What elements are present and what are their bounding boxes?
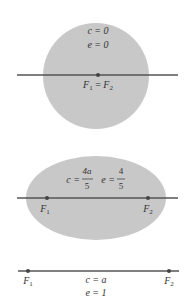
e-denominator: 5 [119, 181, 124, 191]
c-label: c = [66, 174, 80, 185]
focus-point-2 [167, 269, 171, 273]
c-label: c = 0 [87, 25, 108, 36]
focus-label-2: F2 [163, 275, 174, 288]
segment-panel: F1 F2 c = a e = 1 [18, 269, 179, 298]
focus-point-1 [26, 269, 30, 273]
focus-point [96, 73, 100, 77]
focus-label-1: F1 [22, 275, 33, 288]
focus-point-2 [146, 196, 150, 200]
e-label: e = [101, 174, 115, 185]
c-label: c = a [85, 274, 106, 285]
c-numerator: 4a [83, 166, 93, 176]
e-label: e = 1 [85, 287, 106, 298]
circle-panel: c = 0 e = 0 F1 = F2 [17, 23, 178, 129]
c-denominator: 5 [85, 181, 90, 191]
eccentricity-diagram: c = 0 e = 0 F1 = F2 c = 4a 5 e = 4 5 F1 … [0, 0, 191, 302]
focus-point-1 [45, 196, 49, 200]
ellipse-panel: c = 4a 5 e = 4 5 F1 F2 [17, 156, 178, 240]
e-label: e = 0 [87, 39, 108, 50]
e-numerator: 4 [119, 166, 124, 176]
